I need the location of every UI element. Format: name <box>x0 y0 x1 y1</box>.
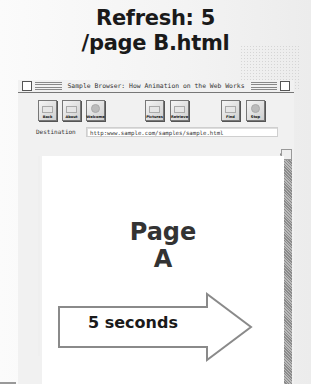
destination-input[interactable]: http:www.sample.com/samples/sample.html <box>86 127 278 137</box>
diagram-caption: Refresh: 5 /page B.html <box>0 6 311 56</box>
title-bar[interactable]: Sample Browser: How Animation on the Web… <box>18 80 294 92</box>
title-stripes <box>35 82 62 90</box>
caption-line-2: /page B.html <box>0 31 311 56</box>
destination-row: Destination http:www.sample.com/samples/… <box>18 127 294 139</box>
back-icon <box>42 106 53 113</box>
timer-label: 5 seconds <box>57 313 209 332</box>
pictures-label: Pictures <box>146 115 163 119</box>
pictures-icon <box>149 106 160 113</box>
content-left-edge <box>38 156 40 356</box>
find-icon <box>225 106 236 113</box>
about-button[interactable]: About <box>62 100 81 121</box>
about-icon <box>66 106 77 113</box>
welcome-label: Welcome <box>86 115 104 119</box>
title-divider <box>18 92 294 93</box>
page-heading-line-2: A <box>42 246 284 273</box>
close-box-icon[interactable] <box>22 81 32 91</box>
caption-line-1: Refresh: 5 <box>0 6 311 31</box>
find-button[interactable]: Find <box>221 100 240 121</box>
retrieve-button[interactable]: Retrieve <box>170 100 189 121</box>
page-heading: Page A <box>42 219 284 273</box>
stop-icon <box>251 104 260 113</box>
back-button[interactable]: Back <box>38 100 57 121</box>
window-title: Sample Browser: How Animation on the Web… <box>65 82 248 90</box>
page-heading-line-1: Page <box>42 219 284 246</box>
about-label: About <box>65 115 77 119</box>
retrieve-label: Retrieve <box>171 115 188 119</box>
find-label: Find <box>226 115 235 119</box>
pictures-button[interactable]: Pictures <box>145 100 164 121</box>
welcome-button[interactable]: Welcome <box>86 100 105 121</box>
toolbar: Back About Welcome Pictures Retrieve Fin… <box>18 96 294 124</box>
stop-label: Stop <box>251 115 260 119</box>
retrieve-icon <box>174 106 185 113</box>
stop-button[interactable]: Stop <box>246 100 265 121</box>
zoom-box-icon[interactable] <box>280 81 290 91</box>
back-label: Back <box>43 115 53 119</box>
title-stripes <box>251 82 278 90</box>
welcome-icon <box>91 104 100 113</box>
destination-label: Destination <box>36 128 76 135</box>
